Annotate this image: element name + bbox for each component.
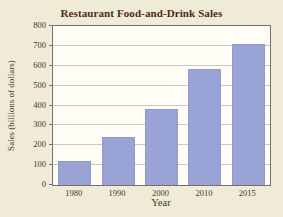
- y-tick-mark-500: [49, 85, 52, 86]
- y-tick-mark-0: [49, 184, 52, 185]
- y-tick-label-100: 100: [16, 159, 46, 169]
- y-axis-label: Sales (billions of dollars): [6, 31, 17, 181]
- y-tick-mark-400: [49, 105, 52, 106]
- y-tick-label-600: 600: [16, 60, 46, 70]
- bar-1980: [58, 161, 91, 185]
- plot-area: [52, 25, 271, 186]
- y-tick-mark-100: [49, 164, 52, 165]
- y-tick-label-300: 300: [16, 119, 46, 129]
- bar-chart-figure: Restaurant Food-and-Drink Sales Sales (b…: [0, 0, 283, 217]
- chart-title: Restaurant Food-and-Drink Sales: [0, 7, 283, 19]
- y-tick-label-400: 400: [16, 100, 46, 110]
- y-tick-mark-300: [49, 124, 52, 125]
- y-tick-label-800: 800: [16, 20, 46, 30]
- y-tick-mark-700: [49, 45, 52, 46]
- y-tick-label-500: 500: [16, 80, 46, 90]
- bar-1990: [102, 137, 135, 185]
- bar-2015: [232, 44, 265, 185]
- y-tick-mark-200: [49, 144, 52, 145]
- bar-2000: [145, 109, 178, 185]
- y-tick-mark-800: [49, 25, 52, 26]
- x-axis-label: Year: [52, 197, 270, 208]
- y-tick-label-0: 0: [16, 179, 46, 189]
- y-tick-mark-600: [49, 65, 52, 66]
- bar-2010: [188, 69, 221, 185]
- y-tick-label-200: 200: [16, 139, 46, 149]
- y-tick-label-700: 700: [16, 40, 46, 50]
